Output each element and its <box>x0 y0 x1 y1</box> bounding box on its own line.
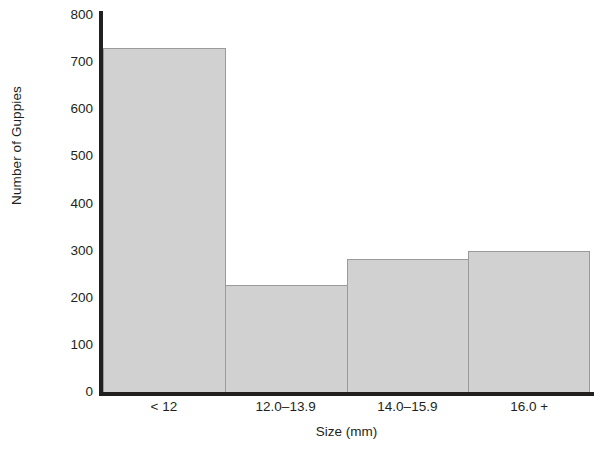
y-axis-tick-label: 500 <box>5 150 93 164</box>
x-axis-tick-label: 12.0–13.9 <box>225 398 347 416</box>
x-axis-tick-label: 14.0–15.9 <box>347 398 469 416</box>
x-axis-tick-labels: < 1212.0–13.914.0–15.916.0 + <box>103 398 590 418</box>
y-axis-tick-label: 200 <box>5 291 93 305</box>
bar-4 <box>468 251 590 392</box>
y-axis-tick-label: 600 <box>5 103 93 117</box>
bar-2 <box>225 285 348 392</box>
y-axis-tick-label: 400 <box>5 197 93 211</box>
x-axis-line <box>99 392 594 396</box>
x-axis-title: Size (mm) <box>103 424 590 439</box>
y-axis-tick-label: 300 <box>5 244 93 258</box>
y-axis-tick-label: 100 <box>5 338 93 352</box>
bar-3 <box>347 259 470 392</box>
y-axis-tick-label: 800 <box>5 8 93 22</box>
y-axis-tick-label: 700 <box>5 55 93 69</box>
y-axis-tick-label: 0 <box>5 385 93 399</box>
bar-1 <box>103 48 226 392</box>
x-axis-tick-label: 16.0 + <box>468 398 590 416</box>
bar-series <box>103 0 590 392</box>
x-axis-tick-label: < 12 <box>103 398 225 416</box>
guppy-size-histogram: Number of Guppies 8007006005004003002001… <box>0 0 615 452</box>
y-axis-tick-labels: 8007006005004003002001000 <box>0 0 93 452</box>
